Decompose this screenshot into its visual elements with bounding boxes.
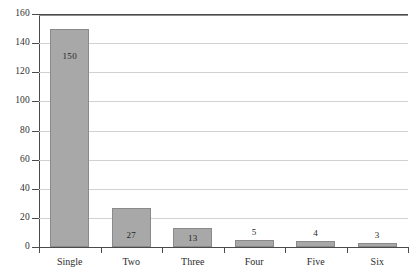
y-tick-160	[32, 14, 39, 15]
bar-value-three: 13	[174, 234, 211, 243]
bar-four	[235, 240, 274, 247]
y-tick-label-60: 60	[2, 155, 30, 165]
y-tick-100	[32, 101, 39, 102]
x-tick-0	[39, 248, 40, 253]
x-tick-5	[347, 248, 348, 253]
y-tick-label-80: 80	[2, 126, 30, 136]
gridline-160	[39, 14, 408, 15]
category-label-four: Four	[224, 256, 286, 267]
bar-two: 27	[112, 208, 151, 247]
y-tick-120	[32, 72, 39, 73]
y-tick-label-40: 40	[2, 184, 30, 194]
y-tick-label-20: 20	[2, 213, 30, 223]
gridline-60	[39, 160, 408, 161]
y-tick-80	[32, 131, 39, 132]
x-tick-6	[408, 248, 409, 253]
x-tick-2	[162, 248, 163, 253]
bar-value-two: 27	[113, 231, 150, 240]
plot-area: 1502713543	[39, 14, 408, 247]
y-tick-40	[32, 189, 39, 190]
y-axis-labels: 020406080100120140160	[0, 0, 30, 277]
gridline-100	[39, 101, 408, 102]
y-tick-0	[32, 247, 39, 248]
y-tick-140	[32, 43, 39, 44]
bar-value-four: 5	[235, 228, 274, 237]
bar-single: 150	[50, 29, 89, 247]
y-tick-label-100: 100	[2, 96, 30, 106]
bar-value-six: 3	[358, 231, 397, 240]
y-tick-label-140: 140	[2, 38, 30, 48]
gridline-80	[39, 131, 408, 132]
gridline-40	[39, 189, 408, 190]
x-tick-1	[101, 248, 102, 253]
gridline-20	[39, 218, 408, 219]
y-tick-label-160: 160	[2, 9, 30, 19]
bar-chart: 020406080100120140160 1502713543 SingleT…	[0, 0, 419, 277]
y-tick-20	[32, 218, 39, 219]
bar-three: 13	[173, 228, 212, 247]
bar-value-single: 150	[51, 52, 88, 61]
y-tick-label-0: 0	[2, 242, 30, 252]
x-tick-4	[285, 248, 286, 253]
x-tick-3	[224, 248, 225, 253]
category-label-six: Six	[347, 256, 409, 267]
y-tick-60	[32, 160, 39, 161]
category-label-five: Five	[285, 256, 347, 267]
gridline-140	[39, 43, 408, 44]
y-tick-label-120: 120	[2, 67, 30, 77]
category-label-two: Two	[101, 256, 163, 267]
category-label-three: Three	[162, 256, 224, 267]
gridline-120	[39, 72, 408, 73]
bar-value-five: 4	[296, 229, 335, 238]
category-label-single: Single	[39, 256, 101, 267]
